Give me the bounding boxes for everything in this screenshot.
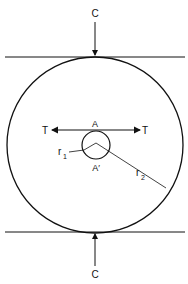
outer-radius-label: r 2 bbox=[136, 167, 145, 181]
svg-text:1: 1 bbox=[63, 153, 67, 160]
outer-radius-line bbox=[96, 143, 166, 188]
svg-text:2: 2 bbox=[141, 174, 145, 181]
inner-radius-label: r 1 bbox=[58, 146, 67, 160]
inner-radius-leader bbox=[69, 150, 84, 152]
left-tension-label: T bbox=[42, 125, 48, 136]
outer-disc bbox=[7, 57, 183, 233]
svg-text:r: r bbox=[58, 146, 62, 157]
point-a-label: A bbox=[92, 119, 98, 129]
svg-text:r: r bbox=[136, 167, 140, 178]
inner-hole bbox=[82, 131, 110, 159]
top-force-label: C bbox=[91, 8, 98, 19]
right-tension-label: T bbox=[142, 125, 148, 136]
inner-radius-line bbox=[84, 143, 96, 150]
bottom-force-label: C bbox=[91, 269, 98, 280]
point-a-prime-label: A′ bbox=[92, 163, 100, 173]
diametral-compression-diagram: C C T T A A′ r 1 r 2 bbox=[0, 0, 188, 284]
